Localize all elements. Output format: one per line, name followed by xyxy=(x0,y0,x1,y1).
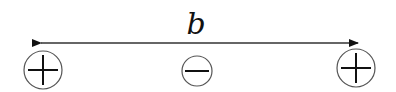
negative-charge-middle xyxy=(182,56,212,86)
charge-diagram: b xyxy=(0,0,396,92)
positive-charge-right xyxy=(337,49,375,87)
positive-charge-left xyxy=(24,51,62,89)
distance-label: b xyxy=(186,6,205,41)
